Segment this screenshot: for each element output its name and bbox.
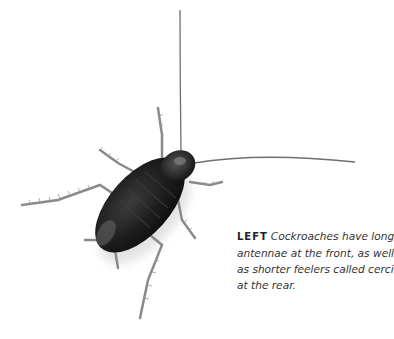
- caption-text: Cockroaches have long: [271, 230, 394, 242]
- caption-line-2: antennae at the front, as well: [237, 245, 387, 261]
- caption-line-3: as shorter feelers called cerci: [237, 261, 387, 277]
- caption-line-1: LEFTCockroaches have long: [237, 228, 387, 245]
- caption-line-4: at the rear.: [237, 277, 387, 293]
- figure-caption: LEFTCockroaches have long antennae at th…: [237, 228, 387, 293]
- caption-lead: LEFT: [237, 231, 268, 242]
